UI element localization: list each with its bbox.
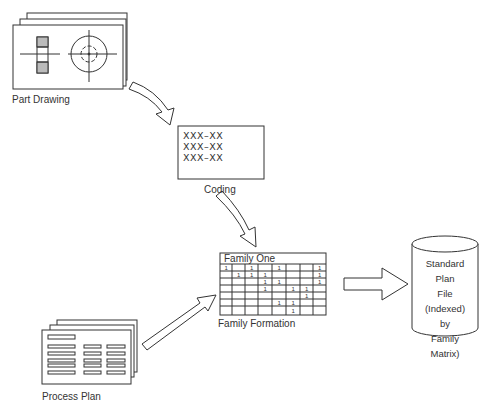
matrix-cell: 1 bbox=[264, 272, 267, 278]
matrix-cell: 1 bbox=[292, 308, 295, 314]
matrix-cell: 1 bbox=[278, 279, 281, 285]
part-drawing-label: Part Drawing bbox=[12, 94, 70, 105]
process-plan-label: Process Plan bbox=[42, 391, 101, 402]
file-label-line: Matrix) bbox=[404, 346, 486, 361]
family-formation-label: Family Formation bbox=[218, 318, 295, 329]
file-label-line: by bbox=[404, 316, 486, 331]
matrix-cell: 1 bbox=[292, 286, 295, 292]
matrix-cell: 1 bbox=[250, 265, 253, 271]
file-label-line: Family bbox=[404, 331, 486, 346]
matrix-cell: 1 bbox=[278, 265, 281, 271]
matrix-cell: 1 bbox=[264, 279, 267, 285]
coding-line-2: XXX–XX bbox=[183, 141, 223, 152]
part-drawing-sheets bbox=[13, 13, 127, 89]
matrix-cell: 1 bbox=[318, 279, 321, 285]
coding-label: Coding bbox=[204, 184, 236, 195]
arrow-family-to-file bbox=[344, 268, 408, 300]
matrix-cell: 1 bbox=[225, 265, 228, 271]
matrix-cell: 1 bbox=[292, 300, 295, 306]
matrix-cell: 1 bbox=[318, 272, 321, 278]
matrix-cell: 1 bbox=[237, 272, 240, 278]
arrow-coding-to-family bbox=[216, 191, 256, 247]
family-matrix-title: Family One bbox=[224, 253, 275, 264]
coding-line-1: XXX–XX bbox=[183, 130, 223, 141]
file-label-line: File bbox=[404, 286, 486, 301]
file-label-line: (Indexed) bbox=[404, 301, 486, 316]
standard-plan-file-label: Standard Plan File (Indexed) by Family M… bbox=[404, 256, 486, 361]
file-label-line: Standard bbox=[404, 256, 486, 271]
arrow-part-to-coding bbox=[129, 82, 174, 125]
matrix-cell: 1 bbox=[278, 300, 281, 306]
matrix-cell: 1 bbox=[264, 286, 267, 292]
process-plan-sheets bbox=[42, 320, 137, 384]
file-label-line: Plan bbox=[404, 271, 486, 286]
coding-line-3: XXX–XX bbox=[183, 152, 223, 163]
arrow-process-to-family bbox=[142, 295, 216, 350]
matrix-cell: 1 bbox=[250, 272, 253, 278]
matrix-cell: 1 bbox=[305, 286, 308, 292]
matrix-cell: 1 bbox=[318, 265, 321, 271]
matrix-cell: 1 bbox=[305, 293, 308, 299]
